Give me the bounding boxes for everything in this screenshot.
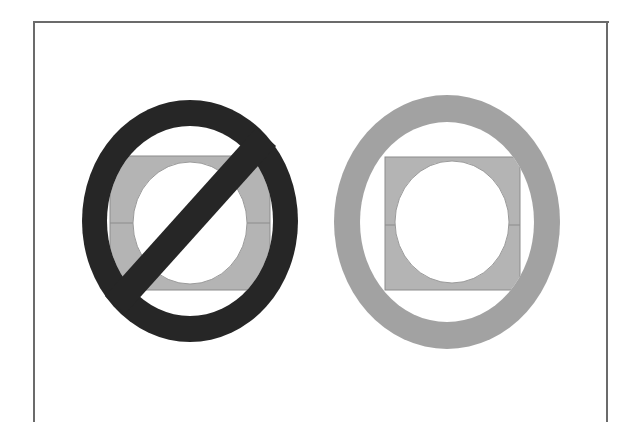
page-frame-right-rule — [606, 21, 608, 422]
plain-circle-symbol-svg — [326, 85, 576, 365]
plain-circle-symbol — [326, 85, 576, 365]
outer-ring — [326, 85, 576, 365]
prohibition-symbol-with-slash — [70, 90, 320, 365]
page-frame-left-rule — [33, 21, 35, 422]
prohibition-symbol-svg — [70, 90, 320, 365]
page-frame-top-rule — [33, 21, 609, 23]
figure-page — [0, 0, 623, 422]
